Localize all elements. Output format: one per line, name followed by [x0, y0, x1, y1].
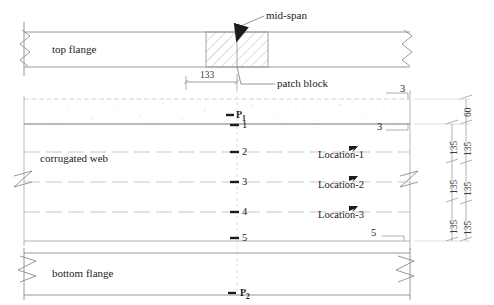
- label-mid-span: mid-span: [266, 10, 307, 21]
- gauge-label-point-5: 5: [242, 233, 247, 244]
- break-symbol-bottom-right: [396, 256, 414, 282]
- patch-block-leader: [237, 67, 275, 84]
- break-symbol-web-left: [14, 171, 32, 187]
- gauge-label-p2-subscript: 2: [246, 292, 250, 301]
- dimension-label-v-inner-135-2: 135: [464, 182, 474, 196]
- label-patch-block: patch block: [277, 78, 328, 89]
- web-outline: [24, 90, 410, 250]
- callout-label-5: 5: [371, 228, 376, 239]
- gauge-label-p2: P2: [240, 288, 250, 301]
- callout-leaders-right: [382, 93, 408, 241]
- dimension-label-v-inner-135-1: 135: [464, 142, 474, 156]
- web-band-texture: [45, 102, 396, 122]
- label-top-flange: top flange: [52, 44, 96, 55]
- label-location-2: Location-2: [318, 180, 364, 191]
- break-symbol-bottom-left: [18, 256, 36, 282]
- break-symbol-web-right: [400, 171, 418, 187]
- label-corrugated-web: corrugated web: [40, 153, 108, 164]
- break-symbol-top-left: [20, 22, 30, 76]
- callout-label-3-upper: 3: [400, 84, 405, 95]
- label-location-1: Location-1: [318, 150, 364, 161]
- label-bottom-flange: bottom flange: [52, 268, 113, 279]
- dimension-label-133: 133: [200, 71, 214, 81]
- gauge-label-point-1: 1: [242, 120, 247, 131]
- engineering-drawing-canvas: mid-span patch block top flange corrugat…: [0, 0, 494, 305]
- dimension-label-v-inner-135-3: 135: [464, 221, 474, 235]
- gauge-label-point-3: 3: [242, 177, 247, 188]
- callout-label-3-lower: 3: [377, 122, 382, 133]
- gauge-label-point-2: 2: [242, 147, 247, 158]
- gauge-label-point-4: 4: [242, 207, 247, 218]
- dimension-label-v-outer-135-2: 135: [450, 180, 460, 194]
- dimension-label-v-outer-135-3: 135: [450, 220, 460, 234]
- label-location-3: Location-3: [318, 210, 364, 221]
- dimension-label-v-outer-135-1: 135: [450, 141, 460, 155]
- dimension-label-v-inner-60: 60: [464, 108, 474, 118]
- break-symbol-top-right: [402, 30, 412, 66]
